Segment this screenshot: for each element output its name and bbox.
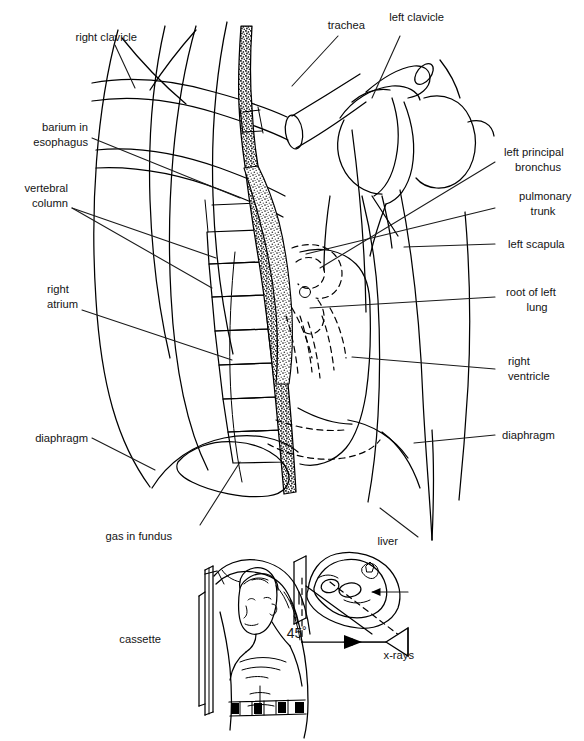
leader-vertebral-b xyxy=(72,208,212,288)
label-liver: liver xyxy=(377,535,398,547)
leader-trachea xyxy=(292,36,338,86)
leader-left-clavicle xyxy=(372,36,400,98)
label-pulmonary-trunk-line1: pulmonary xyxy=(519,190,572,202)
label-vertebral-column-line1: vertebral xyxy=(24,182,68,194)
leader-right-atrium xyxy=(82,310,232,360)
leader-diaphragm-right xyxy=(414,435,495,443)
diagram-canvas: right clavicle trachea left clavicle bar… xyxy=(0,0,584,741)
label-barium-in-esophagus-line2: esophagus xyxy=(33,136,88,148)
leader-root-left-lung xyxy=(310,297,495,308)
leader-diaphragm-left xyxy=(92,438,155,470)
leader-left-bronchus xyxy=(320,162,495,268)
positioning-inset xyxy=(199,552,408,738)
leader-left-scapula xyxy=(404,244,495,247)
label-right-ventricle-line2: ventricle xyxy=(508,370,550,382)
leader-right-ventricle xyxy=(352,357,495,369)
label-angle-45: 45˚ xyxy=(287,625,307,641)
label-diaphragm-left: diaphragm xyxy=(35,432,88,444)
label-pulmonary-trunk-line2: trunk xyxy=(531,205,556,217)
label-left-principal-bronchus-line1: left principal xyxy=(504,146,564,158)
cassette-panel xyxy=(199,566,217,715)
label-left-principal-bronchus-line2: bronchus xyxy=(515,161,561,173)
thorax-cross-section xyxy=(307,552,400,628)
anatomical-figure: right clavicle trachea left clavicle bar… xyxy=(0,0,584,741)
label-diaphragm-right: diaphragm xyxy=(502,429,555,441)
patient-figure xyxy=(214,560,310,738)
label-xrays: x-rays xyxy=(384,649,415,661)
label-text-layer: right clavicle trachea left clavicle bar… xyxy=(24,11,571,661)
label-left-clavicle: left clavicle xyxy=(389,11,444,23)
label-right-ventricle-line1: right xyxy=(508,355,531,367)
label-trachea: trachea xyxy=(328,19,366,31)
label-right-atrium-line1: right xyxy=(47,283,70,295)
label-gas-in-fundus: gas in fundus xyxy=(105,530,172,542)
label-cassette: cassette xyxy=(119,633,161,645)
label-vertebral-column-line2: column xyxy=(32,197,68,209)
label-right-clavicle: right clavicle xyxy=(75,31,137,43)
leader-right-clavicle xyxy=(115,45,135,88)
label-barium-in-esophagus-line1: barium in xyxy=(42,121,88,133)
leader-gas-in-fundus xyxy=(200,462,240,525)
label-root-of-left-lung-line2: lung xyxy=(526,301,547,313)
label-right-atrium-line2: atrium xyxy=(47,298,78,310)
label-left-scapula: left scapula xyxy=(508,238,565,250)
leader-liver xyxy=(380,508,418,537)
label-root-of-left-lung-line1: root of left xyxy=(506,286,557,298)
